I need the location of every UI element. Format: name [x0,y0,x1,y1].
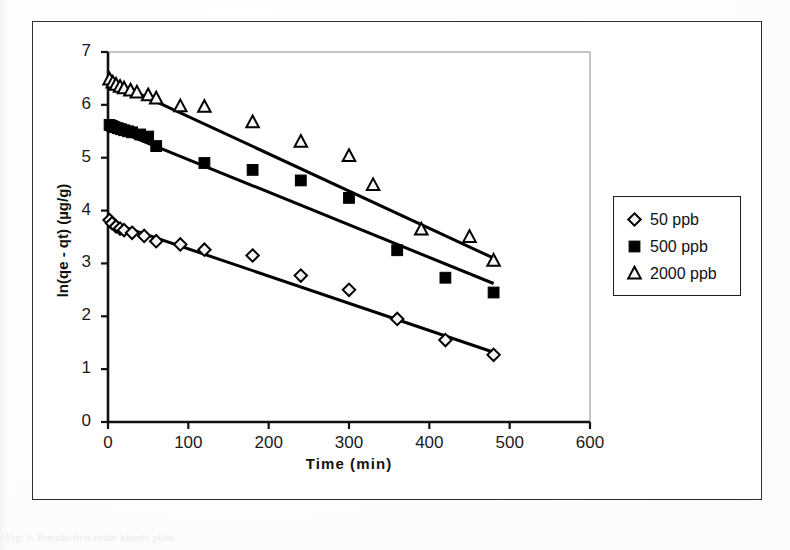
x-axis-title: Time (min) [229,455,469,472]
marker-open-triangle [198,100,211,112]
marker-open-diamond [343,284,355,296]
open-triangle-icon [626,265,643,282]
x-tick-label: 100 [158,433,218,453]
x-tick-label: 500 [480,433,540,453]
marker-filled-square [440,272,451,283]
data-points [103,73,500,361]
legend-item-50ppb[interactable]: 50 ppb [614,206,740,233]
trendline-500-ppb [110,128,494,284]
trendline-2000-ppb [110,80,494,258]
x-tick-label: 400 [399,433,459,453]
figure-page: ln(qe - qt) (µg/g) Time (min) 0123456701… [0,0,790,550]
y-tick-label: 2 [51,305,91,325]
marker-filled-square [199,158,210,169]
legend-item-2000ppb[interactable]: 2000 ppb [614,260,740,287]
y-tick-label: 1 [51,358,91,378]
marker-open-triangle [174,100,187,112]
legend-label: 2000 ppb [650,265,717,283]
y-tick-label: 5 [51,147,91,167]
trendlines [110,80,494,352]
x-tick-label: 300 [319,433,379,453]
marker-filled-square [629,241,640,252]
marker-filled-square [392,245,403,256]
y-tick-label: 0 [51,411,91,431]
marker-filled-square [344,192,355,203]
marker-open-triangle [367,178,380,190]
marker-filled-square [247,164,258,175]
x-tick-label: 0 [78,433,138,453]
legend-item-500ppb[interactable]: 500 ppb [614,233,740,260]
y-tick-label: 4 [51,200,91,220]
chart-legend: 50 ppb 500 ppb 2000 ppb [613,196,741,296]
marker-filled-square [295,175,306,186]
marker-open-triangle [628,267,641,279]
y-tick-label: 6 [51,94,91,114]
y-tick-label: 7 [51,41,91,61]
open-diamond-icon [626,211,643,228]
marker-filled-square [488,287,499,298]
marker-open-triangle [343,149,356,161]
marker-filled-square [151,141,162,152]
marker-open-triangle [463,230,476,242]
marker-open-diamond [628,213,640,225]
figure-caption-cropped: Fig. 4. Pseudo-first-order kinetic plots [6,531,256,547]
y-tick-label: 3 [51,252,91,272]
legend-label: 500 ppb [650,238,708,256]
marker-open-triangle [415,223,428,235]
trendline-50-ppb [110,222,494,352]
filled-square-icon [626,238,643,255]
marker-open-triangle [246,116,259,128]
legend-label: 50 ppb [650,211,699,229]
marker-open-diamond [295,269,307,281]
x-tick-label: 600 [560,433,620,453]
marker-open-diamond [246,249,258,261]
marker-open-triangle [295,135,308,147]
marker-open-diamond [391,313,403,325]
x-tick-label: 200 [239,433,299,453]
